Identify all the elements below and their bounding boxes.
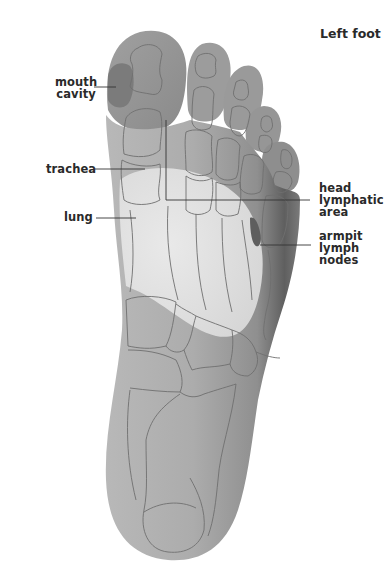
label-armpit-lymph-nodes: armpit lymph nodes <box>319 230 363 266</box>
label-trachea-line1: trachea <box>46 163 96 175</box>
label-armpit-lymph-line3: nodes <box>319 254 363 266</box>
label-lung: lung <box>64 211 93 223</box>
label-mouth-cavity: mouth cavity <box>55 76 97 100</box>
label-lung-line1: lung <box>64 211 93 223</box>
label-mouth-cavity-line2: cavity <box>55 88 97 100</box>
label-trachea: trachea <box>46 163 96 175</box>
label-head-lymphatic-line3: area <box>319 206 384 218</box>
label-head-lymphatic-area: head lymphatic area <box>319 182 384 218</box>
diagram-title: Left foot <box>320 26 381 41</box>
